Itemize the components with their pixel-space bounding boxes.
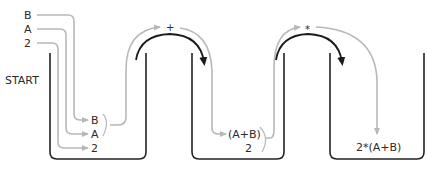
stack-1-brace [103,114,107,136]
flow-2-arrow [37,43,88,148]
stack-2-item: (A+B) [228,128,261,141]
input-label-2: 2 [24,37,31,50]
stack-1-item: B [91,114,99,127]
flow-multiply-result-arrow [316,27,377,134]
flow-a-arrow [37,29,88,134]
stack-1-container [50,53,146,159]
stack-2-item: 2 [245,142,252,155]
flow-b-arrow [37,15,88,120]
flow-to-plus-arrow [110,27,160,125]
input-label-b: B [24,9,32,22]
stack-diagram: B A 2 START B A 2 + (A+B) 2 * 2*(A+B) [0,0,427,175]
operation-multiply-arc [276,34,342,62]
stack-2-container [192,53,284,159]
flow-plus-result-arrow [180,28,226,134]
stack-3-item: 2*(A+B) [356,141,401,154]
input-label-a: A [24,23,32,36]
operation-plus-label: + [166,22,174,33]
stack-1-item: A [91,128,99,141]
start-label: START [5,74,39,87]
stack-1-item: 2 [91,142,98,155]
